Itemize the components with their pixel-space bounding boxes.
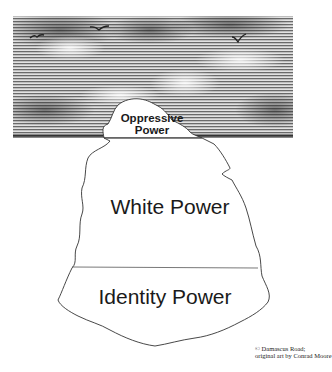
credit-text: © Damascus Road; original art by Conrad … [255,345,332,359]
label-identity-power: Identity Power [75,285,255,309]
label-oppressive-line1: Oppressive [110,112,194,124]
iceberg-body [58,138,269,346]
label-white-power: White Power [85,195,255,219]
label-oppressive-line2: Power [110,124,194,136]
credit-line2: original art by Conrad Moore [255,352,332,359]
credit-line1: © Damascus Road; [255,345,332,352]
label-oppressive-power: Oppressive Power [110,112,194,136]
